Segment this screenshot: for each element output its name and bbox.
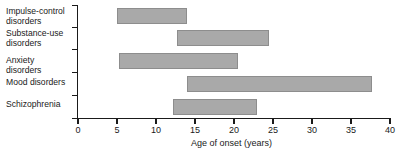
x-tick-label-10: 10	[141, 125, 171, 136]
bar-substance-use	[177, 30, 269, 46]
x-tick-label-30: 30	[297, 125, 327, 136]
bar-impulse-control	[117, 8, 187, 24]
x-axis-tick	[311, 119, 312, 124]
y-axis-tick	[72, 5, 77, 6]
y-axis-tick	[72, 49, 77, 50]
x-axis-title-wrap: Age of onset (years)	[0, 138, 407, 148]
y-axis-tick	[72, 95, 77, 96]
category-label-mood: Mood disorders	[6, 78, 68, 88]
category-label-anxiety: Anxiety disorders	[6, 56, 68, 75]
x-tick-label-0: 0	[63, 125, 93, 136]
x-tick-label-5: 5	[102, 125, 132, 136]
x-axis-tick	[350, 119, 351, 124]
x-tick-label-25: 25	[258, 125, 288, 136]
category-label-schizophrenia: Schizophrenia	[6, 100, 68, 110]
category-label-substance-use: Substance-use disorders	[6, 29, 68, 48]
x-axis-tick	[116, 119, 117, 124]
x-axis-tick	[194, 119, 195, 124]
x-tick-label-35: 35	[336, 125, 366, 136]
bar-mood-disorders	[187, 76, 372, 92]
category-label-impulse-control: Impulse-control disorders	[6, 7, 68, 26]
y-axis-tick	[72, 27, 77, 28]
y-axis-tick	[72, 118, 77, 119]
chart-figure: Impulse-control disorders Substance-use …	[0, 0, 407, 157]
x-tick-label-40: 40	[375, 125, 405, 136]
x-tick-label-15: 15	[180, 125, 210, 136]
x-tick-label-20: 20	[219, 125, 249, 136]
y-axis-line	[77, 5, 78, 119]
x-axis-tick	[272, 119, 273, 124]
x-axis-tick	[77, 119, 78, 124]
bar-anxiety-disorders	[119, 53, 238, 69]
bar-schizophrenia	[173, 99, 257, 115]
y-axis-tick	[72, 72, 77, 73]
x-axis-tick	[155, 119, 156, 124]
x-axis-title: Age of onset (years)	[135, 138, 272, 148]
x-axis-tick	[233, 119, 234, 124]
x-axis-tick	[389, 119, 390, 124]
